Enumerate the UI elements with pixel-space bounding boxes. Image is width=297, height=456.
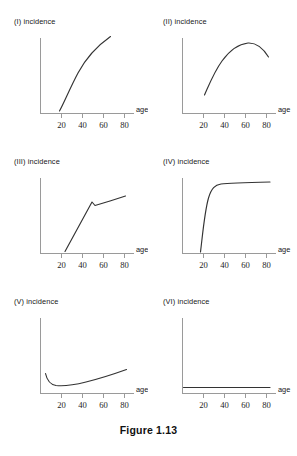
axes — [41, 178, 135, 254]
panel-grid: (I) incidence 20 40 60 80 age (II) incid… — [0, 0, 297, 420]
panel-iii: (III) incidence 20 40 60 80 age — [0, 140, 148, 280]
curve-ii — [205, 43, 269, 95]
x-tick-label-20: 20 — [57, 400, 66, 410]
x-tick-label-40: 40 — [78, 400, 87, 410]
figure-1-13: (I) incidence 20 40 60 80 age (II) incid… — [0, 0, 297, 456]
x-axis-label: age — [136, 105, 148, 114]
x-tick-label-20: 20 — [199, 260, 208, 270]
axes — [183, 318, 277, 394]
x-tick-label-60: 60 — [241, 260, 250, 270]
x-tick-label-80: 80 — [120, 120, 129, 130]
panel-vi-plot: 20 40 60 80 age — [149, 280, 297, 420]
x-tick-label-60: 60 — [99, 260, 108, 270]
x-tick-label-40: 40 — [220, 120, 229, 130]
x-tick-label-80: 80 — [120, 400, 129, 410]
x-tick-label-60: 60 — [241, 120, 250, 130]
x-tick-label-20: 20 — [57, 260, 66, 270]
panel-iv-plot: 20 40 60 80 age — [149, 140, 297, 280]
x-tick-label-20: 20 — [199, 400, 208, 410]
panel-i: (I) incidence 20 40 60 80 age — [0, 0, 148, 140]
panel-vi: (VI) incidence 20 40 60 80 age — [149, 280, 297, 420]
x-ticks — [62, 114, 125, 118]
figure-caption: Figure 1.13 — [0, 424, 297, 436]
panel-v-plot: 20 40 60 80 age — [0, 280, 148, 420]
x-axis-label: age — [136, 245, 148, 254]
panel-ii: (II) incidence 20 40 60 80 age — [149, 0, 297, 140]
axes — [41, 38, 135, 114]
panel-iii-plot: 20 40 60 80 age — [0, 140, 148, 280]
x-tick-label-80: 80 — [262, 260, 271, 270]
panel-iv: (IV) incidence 20 40 60 80 age — [149, 140, 297, 280]
x-tick-label-40: 40 — [220, 400, 229, 410]
x-tick-label-60: 60 — [241, 400, 250, 410]
x-ticks — [62, 394, 125, 398]
x-axis-label: age — [278, 245, 290, 254]
x-ticks — [204, 114, 267, 118]
x-tick-label-40: 40 — [78, 120, 87, 130]
x-ticks — [204, 394, 267, 398]
x-tick-label-20: 20 — [57, 120, 66, 130]
x-ticks — [204, 254, 267, 258]
panel-v: (V) incidence 20 40 60 80 age — [0, 280, 148, 420]
x-tick-label-20: 20 — [199, 120, 208, 130]
axes — [183, 178, 277, 254]
curve-i — [60, 37, 111, 112]
panel-ii-plot: 20 40 60 80 age — [149, 0, 297, 140]
curve-iv — [201, 182, 271, 252]
x-tick-label-40: 40 — [220, 260, 229, 270]
curve-v — [46, 370, 127, 386]
curve-iii — [65, 196, 126, 252]
x-tick-label-60: 60 — [99, 400, 108, 410]
x-tick-label-80: 80 — [262, 120, 271, 130]
x-tick-label-80: 80 — [262, 400, 271, 410]
x-tick-label-40: 40 — [78, 260, 87, 270]
x-axis-label: age — [136, 385, 148, 394]
panel-i-plot: 20 40 60 80 age — [0, 0, 148, 140]
x-tick-label-80: 80 — [120, 260, 129, 270]
x-tick-label-60: 60 — [99, 120, 108, 130]
x-axis-label: age — [278, 385, 290, 394]
x-axis-label: age — [278, 105, 290, 114]
x-ticks — [62, 254, 125, 258]
